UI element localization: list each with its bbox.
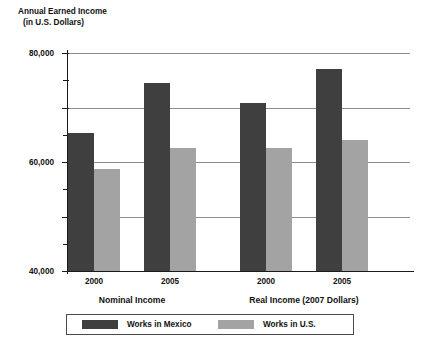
legend-item-works-in-mexico: Works in Mexico: [82, 315, 191, 334]
x-axis-group-label: Nominal Income: [99, 295, 165, 305]
legend-label-us: Works in U.S.: [263, 320, 316, 329]
chart-legend: Works in Mexico Works in U.S.: [66, 314, 354, 335]
bar-us: [266, 148, 292, 271]
bar-us: [342, 140, 368, 271]
legend-swatch-mexico: [82, 320, 118, 329]
plot-area: 020,00040,00060,00080,000: [68, 53, 410, 271]
y-axis-tick-label: 40,000: [29, 267, 54, 276]
legend-item-works-in-us: Works in U.S.: [218, 315, 316, 334]
chart-axis-title: Annual Earned Income (in U.S. Dollars): [18, 6, 107, 28]
chart-title-line1: Annual Earned Income: [18, 6, 107, 17]
y-axis-tick-minor: [63, 80, 69, 81]
x-axis-tick-label: 2005: [161, 277, 179, 286]
legend-label-mexico: Works in Mexico: [127, 320, 191, 329]
chart-title-line2: (in U.S. Dollars): [18, 17, 107, 28]
bar-us: [94, 169, 120, 271]
bar-mexico: [144, 83, 170, 271]
y-axis-tick-major: 80,000: [62, 53, 69, 54]
x-axis-tick-label: 2000: [85, 277, 103, 286]
bar-chart: Annual Earned Income (in U.S. Dollars) 0…: [0, 0, 428, 346]
gridline: [68, 53, 410, 54]
x-axis-tick-label: 2005: [333, 277, 351, 286]
y-axis-tick-major: 0: [62, 271, 69, 272]
legend-swatch-us: [218, 320, 254, 329]
bar-mexico: [68, 133, 94, 271]
x-axis-group-label: Real Income (2007 Dollars): [249, 295, 358, 305]
bar-us: [170, 148, 196, 271]
bar-mexico: [240, 103, 266, 271]
y-axis-tick-label: 80,000: [29, 49, 54, 58]
y-axis-tick-major: 60,000: [62, 108, 69, 109]
gridline: [68, 108, 410, 109]
y-axis-tick-label: 60,000: [29, 158, 54, 167]
x-axis-tick-label: 2000: [257, 277, 275, 286]
bar-mexico: [316, 69, 342, 271]
